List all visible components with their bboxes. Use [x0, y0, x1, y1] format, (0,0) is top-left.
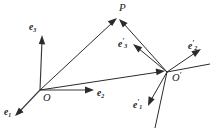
label-e2-prime: e'2	[188, 40, 197, 52]
frame-Oprime-group	[133, 44, 210, 128]
vector-O-to-Oprime	[40, 69, 165, 90]
vector-canvas	[0, 0, 214, 130]
label-e1-prime: e'1	[133, 99, 142, 111]
vector-e3	[39, 35, 45, 90]
vector-e1-prime-tail	[155, 72, 167, 128]
label-origin-O-prime: O'	[172, 71, 181, 83]
label-point-P: P	[119, 2, 126, 13]
vector-e1-prime	[148, 72, 167, 106]
label-e3-prime: e'3	[118, 38, 127, 50]
label-e1: e1	[4, 108, 11, 119]
vector-O-to-P	[40, 18, 117, 90]
vector-e1	[15, 90, 40, 116]
label-e3: e3	[29, 23, 36, 34]
frame-O-group	[15, 35, 94, 116]
label-origin-O: O	[43, 93, 51, 104]
vector-diagram: e3 e2 e1 O P e'3 e'2 e'1 O'	[0, 0, 214, 130]
vector-e3-prime	[133, 44, 167, 72]
label-e2: e2	[97, 89, 104, 100]
